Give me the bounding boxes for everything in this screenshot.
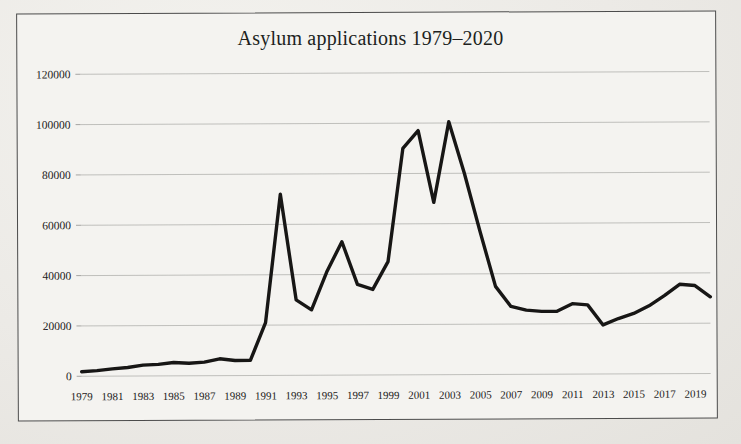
y-tick-label: 80000 (42, 169, 71, 181)
x-tick-label: 1985 (163, 390, 186, 402)
x-tick-label: 1999 (378, 389, 401, 401)
x-tick-label: 2001 (408, 389, 430, 401)
gridline-y-20000 (81, 323, 710, 326)
x-tick-label: 2013 (592, 388, 615, 400)
x-tick-label: 1991 (255, 389, 277, 401)
line-chart-plot: 020000400006000080000100000120000 197919… (0, 0, 741, 444)
x-tick-label: 2007 (500, 388, 523, 400)
x-tick-label: 1989 (224, 390, 247, 402)
y-tick-label: 60000 (42, 219, 71, 231)
chart-figure: Asylum applications 1979–2020 0200004000… (0, 0, 741, 444)
y-tick-label: 120000 (36, 68, 71, 80)
x-tick-label: 2019 (684, 388, 707, 400)
y-tick-label: 40000 (42, 270, 71, 282)
x-tick-label: 1979 (71, 390, 94, 402)
x-tick-label: 2005 (470, 388, 493, 400)
gridline-y-80000 (81, 172, 710, 175)
x-tick-label: 1995 (316, 389, 339, 401)
x-tick-label: 2003 (439, 389, 462, 401)
x-tick-label: 1993 (286, 389, 309, 401)
x-axis-tick-labels: 1979198119831985198719891991199319951997… (71, 388, 707, 403)
x-tick-label: 1983 (132, 390, 155, 402)
x-tick-label: 2015 (623, 388, 646, 400)
data-line (81, 121, 711, 372)
x-tick-label: 1987 (193, 390, 216, 402)
gridline-y-100000 (81, 122, 710, 125)
gridline-y-0 (82, 374, 711, 377)
x-tick-label: 2009 (531, 388, 554, 400)
data-series-asylum-applications (81, 121, 711, 372)
x-tick-label: 1981 (101, 390, 123, 402)
y-tick-label: 100000 (36, 119, 71, 131)
x-tick-label: 2017 (654, 388, 677, 400)
y-tick-label: 20000 (43, 320, 72, 332)
y-axis-tick-labels: 020000400006000080000100000120000 (36, 68, 72, 382)
y-tick-label: 0 (66, 370, 72, 382)
x-tick-label: 1997 (347, 389, 370, 401)
gridline-y-40000 (81, 273, 710, 276)
gridline-y-120000 (80, 72, 709, 75)
gridline-y-60000 (81, 223, 710, 226)
x-tick-label: 2011 (562, 388, 584, 400)
